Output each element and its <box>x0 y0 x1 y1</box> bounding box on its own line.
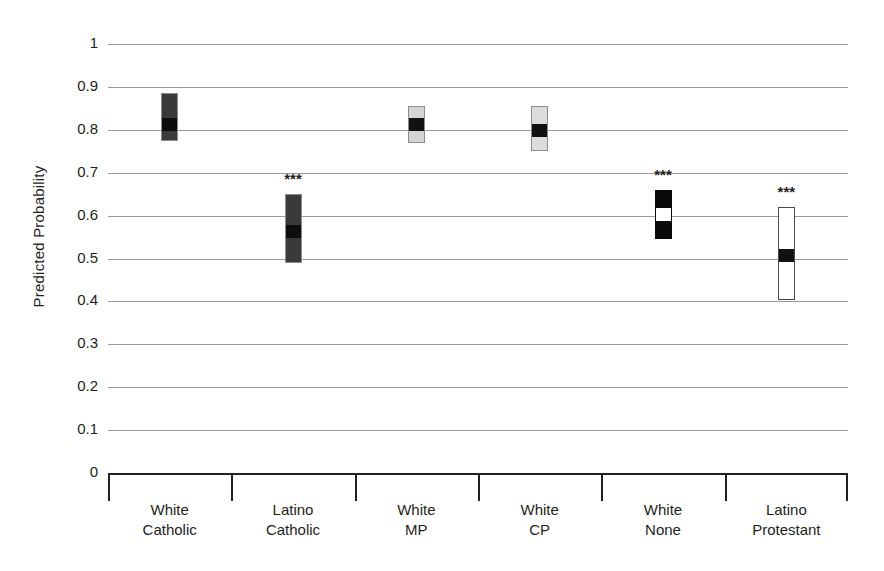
category-label-line1: White <box>355 500 478 520</box>
point-estimate-marker <box>409 118 424 131</box>
gridline <box>108 216 848 217</box>
category-label-line2: CP <box>478 520 601 540</box>
y-axis-tick-label: 1 <box>34 34 98 51</box>
gridline <box>108 259 848 260</box>
ci-bar-white-cp <box>531 106 548 151</box>
category-label-line1: White <box>478 500 601 520</box>
y-axis-tick-label: 0.9 <box>34 77 98 94</box>
gridline <box>108 173 848 174</box>
category-label-line1: White <box>601 500 724 520</box>
category-divider <box>601 473 603 501</box>
y-axis-tick-label: 0.2 <box>34 377 98 394</box>
category-label-line2: Catholic <box>231 520 354 540</box>
y-axis-tick-label: 0 <box>34 463 98 480</box>
gridline <box>108 301 848 302</box>
point-estimate-marker <box>779 249 794 262</box>
y-axis-tick-label: 0.6 <box>34 206 98 223</box>
category-label-white-none: WhiteNone <box>601 500 724 540</box>
point-estimate-marker <box>286 225 301 238</box>
point-estimate-marker <box>532 124 547 137</box>
y-axis-title: Predicted Probability <box>30 127 47 347</box>
gridline <box>108 87 848 88</box>
category-divider <box>725 473 727 501</box>
predicted-probability-chart: Predicted Probability 00.10.20.30.40.50.… <box>0 0 884 571</box>
gridline <box>108 344 848 345</box>
category-label-white-mp: WhiteMP <box>355 500 478 540</box>
gridline <box>108 430 848 431</box>
ci-bar-white-none <box>655 190 672 239</box>
category-label-latino-catholic: LatinoCatholic <box>231 500 354 540</box>
point-estimate-marker <box>656 208 671 221</box>
y-axis-tick-label: 0.3 <box>34 334 98 351</box>
category-divider <box>478 473 480 501</box>
category-label-white-cp: WhiteCP <box>478 500 601 540</box>
y-axis-tick-label: 0.4 <box>34 291 98 308</box>
ci-bar-white-mp <box>408 106 425 142</box>
category-label-white-catholic: WhiteCatholic <box>108 500 231 540</box>
significance-stars: *** <box>756 183 816 200</box>
category-label-line1: Latino <box>231 500 354 520</box>
y-axis-tick-label: 0.5 <box>34 249 98 266</box>
category-label-line1: White <box>108 500 231 520</box>
category-label-line2: Protestant <box>725 520 848 540</box>
ci-bar-latino-catholic <box>285 194 302 263</box>
category-divider <box>231 473 233 501</box>
gridline <box>108 130 848 131</box>
y-axis-tick-label: 0.1 <box>34 420 98 437</box>
category-label-line1: Latino <box>725 500 848 520</box>
y-axis-tick-label: 0.8 <box>34 120 98 137</box>
ci-bar-latino-protestant <box>778 207 795 300</box>
category-label-line2: MP <box>355 520 478 540</box>
category-label-line2: Catholic <box>108 520 231 540</box>
y-axis-tick-label: 0.7 <box>34 163 98 180</box>
category-label-line2: None <box>601 520 724 540</box>
significance-stars: *** <box>263 170 323 187</box>
point-estimate-marker <box>162 118 177 131</box>
gridline <box>108 387 848 388</box>
gridline <box>108 44 848 45</box>
category-divider <box>355 473 357 501</box>
significance-stars: *** <box>633 166 693 183</box>
ci-bar-white-catholic <box>161 93 178 140</box>
category-label-latino-protestant: LatinoProtestant <box>725 500 848 540</box>
plot-area <box>108 44 848 473</box>
